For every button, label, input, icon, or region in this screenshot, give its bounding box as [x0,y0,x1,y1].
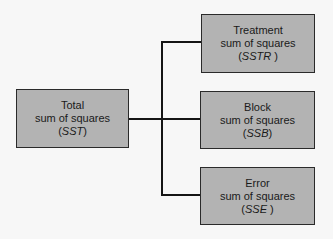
box-abbreviation: (SSB) [243,127,272,140]
box-abbreviation: (SSE ) [241,203,273,216]
block-sum-of-squares-box: Block sum of squares (SSB) [200,91,315,149]
connector-root-horizontal [128,118,201,120]
box-abbreviation: (SST) [58,125,87,138]
connector-vertical-trunk [161,41,163,196]
connector-treatment [161,41,201,43]
treatment-sum-of-squares-box: Treatment sum of squares (SSTR ) [201,14,315,73]
total-sum-of-squares-box: Total sum of squares (SST) [16,89,129,148]
box-subtitle: sum of squares [220,190,295,203]
connector-error [161,194,201,196]
box-abbreviation: (SSTR ) [238,50,278,63]
box-title: Treatment [233,24,283,37]
error-sum-of-squares-box: Error sum of squares (SSE ) [200,167,315,225]
box-subtitle: sum of squares [220,37,295,50]
box-title: Error [245,177,269,190]
box-title: Block [244,101,271,114]
box-subtitle: sum of squares [35,112,110,125]
box-subtitle: sum of squares [220,114,295,127]
box-title: Total [61,99,84,112]
